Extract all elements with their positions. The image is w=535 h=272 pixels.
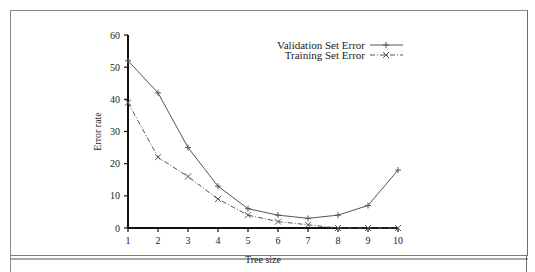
- chart-series: [125, 58, 401, 231]
- chart-axes: 010203040506012345678910Tree sizeError r…: [92, 30, 403, 266]
- y-tick-label: 20: [110, 158, 120, 169]
- x-tick-label: 1: [126, 235, 131, 246]
- x-tick-label: 9: [366, 235, 371, 246]
- series-training: [125, 100, 401, 231]
- x-tick-label: 7: [306, 235, 311, 246]
- y-tick-label: 10: [110, 190, 120, 201]
- x-tick-label: 4: [216, 235, 221, 246]
- y-axis-title: Error rate: [92, 112, 103, 151]
- y-tick-label: 50: [110, 62, 120, 73]
- y-tick-label: 60: [110, 30, 120, 41]
- legend-label: Training Set Error: [285, 49, 366, 61]
- y-tick-label: 0: [115, 223, 120, 234]
- y-tick-label: 30: [110, 126, 120, 137]
- chart-legend: Validation Set ErrorTraining Set Error: [277, 39, 403, 61]
- x-axis-title: Tree size: [245, 254, 282, 265]
- x-tick-label: 2: [156, 235, 161, 246]
- x-tick-label: 10: [393, 235, 403, 246]
- series-validation: [125, 58, 401, 222]
- line-chart: 010203040506012345678910Tree sizeError r…: [0, 0, 535, 272]
- x-tick-label: 8: [336, 235, 341, 246]
- series-line: [128, 61, 398, 219]
- x-tick-label: 3: [186, 235, 191, 246]
- y-tick-label: 40: [110, 94, 120, 105]
- x-tick-label: 5: [246, 235, 251, 246]
- x-tick-label: 6: [276, 235, 281, 246]
